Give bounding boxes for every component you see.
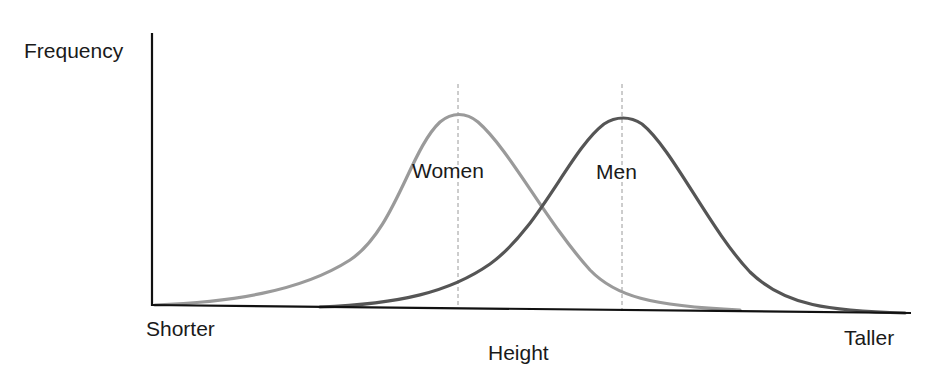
x-axis-right-label: Taller xyxy=(844,327,894,348)
x-axis-label: Height xyxy=(488,342,549,363)
x-axis-left-label: Shorter xyxy=(146,318,215,339)
men-curve xyxy=(320,118,905,313)
women-curve xyxy=(155,115,740,311)
y-axis-label: Frequency xyxy=(24,40,123,61)
women-label: Women xyxy=(412,160,484,181)
x-axis xyxy=(151,305,911,313)
men-label: Men xyxy=(596,161,637,182)
height-distribution-chart xyxy=(0,0,935,377)
